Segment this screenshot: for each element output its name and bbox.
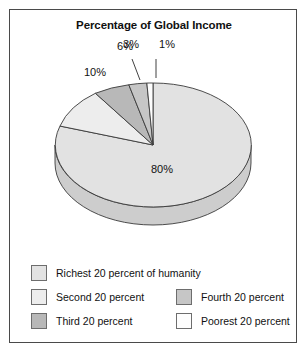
legend-item-second: Second 20 percent [31, 286, 144, 308]
legend-item-richest: Richest 20 percent of humanity [31, 262, 201, 284]
legend-item-poorest: Poorest 20 percent [176, 310, 290, 332]
legend-label-fourth: Fourth 20 percent [201, 292, 284, 303]
outer-slice-labels: 3% 1% [9, 28, 297, 68]
legend-item-fourth: Fourth 20 percent [176, 286, 284, 308]
slice-value-1: 1% [159, 38, 175, 50]
pie-chart-figure: Percentage of Global Income [0, 0, 308, 354]
legend-swatch-fourth [176, 289, 192, 305]
slice-value-80: 80% [151, 163, 173, 175]
legend-label-richest: Richest 20 percent of humanity [56, 268, 201, 279]
legend-label-poorest: Poorest 20 percent [201, 316, 290, 327]
pie-slices [55, 83, 251, 207]
legend-label-second: Second 20 percent [56, 292, 144, 303]
legend-label-third: Third 20 percent [56, 316, 132, 327]
slice-value-3: 3% [123, 38, 139, 50]
legend-swatch-poorest [176, 313, 192, 329]
legend-swatch-third [31, 313, 47, 329]
legend-swatch-richest [31, 265, 47, 281]
legend: Richest 20 percent of humanity Second 20… [22, 262, 288, 334]
legend-item-third: Third 20 percent [31, 310, 132, 332]
legend-swatch-second [31, 289, 47, 305]
